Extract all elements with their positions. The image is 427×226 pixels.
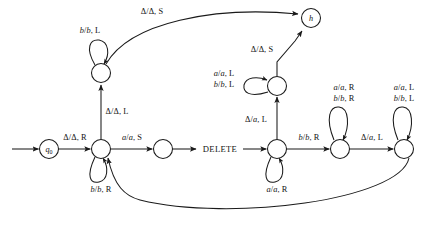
state-diagram-canvas: q0 h DELETE Δ/Δ, R a/a, S b/b, R Δ/Δ, L … — [0, 0, 427, 226]
edge-upper-left-to-halt-arc — [106, 12, 298, 64]
state-shift-right-circle[interactable] — [331, 140, 350, 159]
edge-label-delete-to-shift-r: b/b, R — [298, 133, 319, 144]
state-upper-mid-circle[interactable] — [268, 77, 287, 96]
edge-label-shift-r-loop-2: b/b, R — [333, 94, 354, 105]
self-loop-main-left — [90, 157, 107, 182]
edge-upper-mid-to-halt — [277, 31, 302, 76]
state-delete-entry-circle[interactable] — [268, 140, 287, 159]
edge-label-main-to-after-a: a/a, S — [122, 133, 142, 144]
edge-label-upper-self-loop: b/b, L — [80, 26, 101, 37]
edge-label-shift-l-loop-1: a/a, L — [394, 83, 415, 94]
edge-label-delete-entry-top: Δ/a, L — [245, 115, 267, 126]
edge-label-delete-self-loop: a/a, R — [266, 185, 287, 196]
self-loop-shift-right — [329, 107, 347, 140]
state-halt-label: h — [309, 14, 313, 23]
edge-label-main-to-upper: Δ/Δ, L — [105, 107, 128, 118]
state-after-a-circle[interactable] — [154, 140, 173, 159]
state-upper-left-circle[interactable] — [92, 64, 111, 83]
edge-label-shift-r-loop-1: a/a, R — [333, 83, 354, 94]
edge-label-upper-mid-loop-2: b/b, L — [214, 80, 235, 91]
state-main-left-circle[interactable] — [92, 140, 111, 159]
edge-label-upper-mid-loop-1: a/a, L — [214, 69, 235, 80]
self-loop-upper-left — [89, 40, 107, 65]
edge-label-main-self-loop: b/b, R — [90, 185, 111, 196]
self-loop-shift-left — [393, 107, 411, 140]
edge-label-q0-to-main: Δ/Δ, R — [63, 133, 86, 144]
self-loop-upper-mid — [244, 78, 268, 95]
state-shift-left-circle[interactable] — [395, 140, 414, 159]
edge-shift-left-to-main-arc — [108, 158, 409, 209]
subroutine-label-delete: DELETE — [203, 144, 237, 154]
diagram-svg — [0, 0, 427, 226]
self-loop-delete-entry — [266, 157, 283, 182]
edge-label-shift-r-to-shift-l: Δ/a, L — [361, 133, 383, 144]
state-q0-label: q0 — [45, 145, 52, 156]
edge-label-shift-l-loop-2: b/b, L — [394, 94, 415, 105]
edge-label-upper-to-halt: Δ/Δ, S — [141, 7, 164, 18]
edge-label-upper-mid-to-halt: Δ/Δ, S — [251, 45, 274, 56]
